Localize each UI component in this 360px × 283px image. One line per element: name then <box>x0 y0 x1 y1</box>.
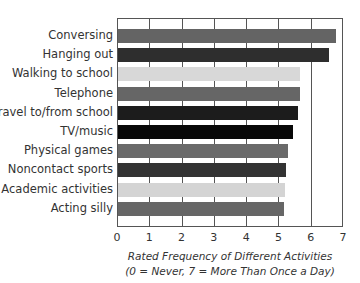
x-tick-label: 6 <box>301 231 321 244</box>
x-axis-title: Rated Frequency of Different Activities <box>117 250 343 262</box>
x-tick-label: 4 <box>236 231 256 244</box>
bar <box>118 125 293 139</box>
x-tick-label: 0 <box>107 231 127 244</box>
x-tick-label: 7 <box>333 231 353 244</box>
category-label: Physical games <box>24 143 113 157</box>
x-axis-subtitle: (0 = Never, 7 = More Than Once a Day) <box>117 265 343 277</box>
bar <box>118 183 285 197</box>
bar <box>118 106 298 120</box>
category-label: Academic activities <box>1 182 113 196</box>
category-label: Travel to/from school <box>0 105 113 119</box>
x-tick-label: 3 <box>204 231 224 244</box>
bar <box>118 48 329 62</box>
category-label: TV/music <box>60 124 113 138</box>
category-label: Walking to school <box>12 66 113 80</box>
x-tick-label: 5 <box>268 231 288 244</box>
bar <box>118 163 286 177</box>
category-label: Telephone <box>55 86 113 100</box>
bar-chart: ConversingHanging outWalking to schoolTe… <box>0 0 360 283</box>
category-label: Acting silly <box>51 201 113 215</box>
x-tick-label: 1 <box>139 231 159 244</box>
bar <box>118 29 336 43</box>
category-label: Conversing <box>48 28 113 42</box>
bar <box>118 202 284 216</box>
bar <box>118 67 300 81</box>
x-tick-label: 2 <box>172 231 192 244</box>
category-label: Noncontact sports <box>8 162 113 176</box>
bar <box>118 144 288 158</box>
bar <box>118 87 300 101</box>
plot-area <box>117 18 343 227</box>
category-label: Hanging out <box>42 47 113 61</box>
